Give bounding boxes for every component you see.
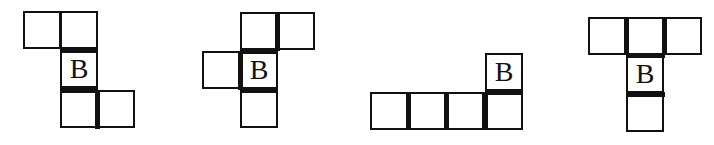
face-cell <box>240 90 278 128</box>
fold-edge <box>485 90 523 95</box>
face-cell <box>370 92 408 130</box>
fold-edge <box>406 92 411 130</box>
fold-edge <box>60 48 98 53</box>
fold-edge <box>95 90 100 129</box>
face-cell <box>240 12 278 50</box>
fold-edge <box>60 88 98 93</box>
face-b-cell: B <box>240 51 278 89</box>
face-cell <box>626 17 664 55</box>
face-b-cell: B <box>485 53 523 91</box>
fold-edge <box>240 88 278 93</box>
face-b-cell: B <box>626 55 664 93</box>
fold-edge <box>275 12 280 51</box>
fold-edge <box>238 51 243 90</box>
fold-edge <box>626 53 665 58</box>
face-cell <box>588 17 626 55</box>
face-cell <box>202 51 240 89</box>
fold-edge <box>626 92 665 97</box>
face-cell <box>485 92 523 130</box>
face-cell <box>97 90 135 128</box>
face-cell <box>664 17 702 55</box>
fold-edge <box>662 17 667 55</box>
face-b-cell: B <box>60 50 98 88</box>
fold-edge <box>483 92 488 130</box>
face-cell <box>446 92 484 130</box>
face-cell <box>23 11 61 49</box>
fold-edge <box>444 92 449 130</box>
face-cell <box>277 12 315 50</box>
face-cell <box>60 11 98 49</box>
fold-edge <box>624 17 629 55</box>
fold-edge <box>240 49 278 54</box>
face-cell <box>408 92 446 130</box>
face-cell <box>626 94 664 132</box>
face-cell <box>60 90 98 128</box>
